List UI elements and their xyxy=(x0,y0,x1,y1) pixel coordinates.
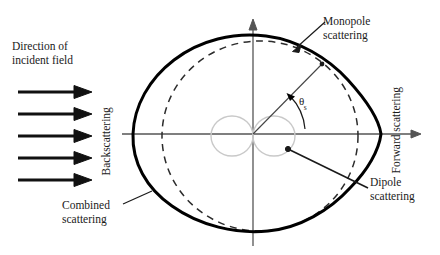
dipole-scattering-label: Dipole scattering xyxy=(370,176,415,203)
theta-subscript: s xyxy=(304,103,307,112)
theta-radial-line xyxy=(253,64,322,134)
combined-scattering-curve xyxy=(133,35,381,232)
incident-arrow-1 xyxy=(18,86,92,99)
combined-scattering-label-line1: Combined xyxy=(62,199,110,213)
axes xyxy=(122,19,421,246)
backscattering-label: Backscattering xyxy=(100,107,114,175)
x-axis-arrowhead xyxy=(411,130,421,138)
incident-arrow-5 xyxy=(18,174,92,187)
incident-arrow-4 xyxy=(18,152,92,165)
theta-radial-endpoint-dot xyxy=(320,62,325,67)
incident-field-label-line2: incident field xyxy=(12,54,73,68)
forward-scattering-label: Forward scattering xyxy=(390,87,404,174)
dipole-leader-dot xyxy=(285,146,290,151)
monopole-leader xyxy=(293,22,326,53)
combined-leader xyxy=(123,191,152,204)
dipole-lobe-left xyxy=(211,116,253,156)
incident-arrow-2 xyxy=(18,108,92,121)
y-axis-arrowhead xyxy=(249,19,257,30)
figure-canvas: Direction of incident field Backscatteri… xyxy=(0,0,440,255)
monopole-dashed-circle xyxy=(162,41,358,231)
dipole-scattering-label-line2: scattering xyxy=(370,190,415,204)
monopole-scattering-label-line1: Monopole xyxy=(323,15,370,29)
incident-field-label-line1: Direction of xyxy=(12,40,73,54)
dipole-scattering-label-line1: Dipole xyxy=(370,176,415,190)
combined-scattering-label: Combined scattering xyxy=(62,199,110,226)
theta-angle-indicator xyxy=(253,62,324,134)
theta-s-angle-label: θs xyxy=(299,95,307,113)
monopole-scattering-label-line2: scattering xyxy=(323,29,370,43)
incident-arrow-3 xyxy=(18,130,92,143)
monopole-scattering-label: Monopole scattering xyxy=(323,15,370,42)
incident-field-arrows xyxy=(18,86,92,187)
dipole-leader xyxy=(285,146,368,188)
combined-scattering-label-line2: scattering xyxy=(62,213,110,227)
incident-field-label: Direction of incident field xyxy=(12,40,73,67)
